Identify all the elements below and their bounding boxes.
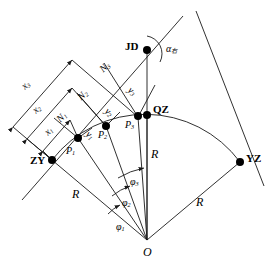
label-R-right: R	[196, 196, 203, 208]
label-P1: P1	[66, 146, 75, 157]
angle-arc-phi2	[112, 186, 130, 196]
label-phi1: φ1	[116, 222, 125, 233]
radius-O-P3	[138, 117, 147, 240]
curve-setting-out-figure: JD QZ ZY YZ O P1 P2 P3 x1 x2 x3 y1 y2 y3…	[0, 0, 272, 266]
label-QZ: QZ	[153, 104, 169, 115]
label-YZ: YZ	[246, 153, 261, 164]
label-JD: JD	[125, 41, 138, 52]
dot-YZ	[236, 158, 244, 166]
label-phi2: φ2	[122, 198, 131, 209]
radius-O-YZ	[147, 162, 240, 240]
label-ZY: ZY	[30, 155, 45, 166]
label-P2: P2	[98, 130, 107, 141]
label-P3: P3	[125, 120, 134, 131]
label-alpha: α右	[166, 44, 177, 55]
dot-P1	[74, 134, 82, 142]
station-dots	[48, 46, 244, 166]
label-phi3: φ3	[130, 177, 139, 188]
dot-P3	[134, 112, 142, 120]
label-O: O	[143, 246, 152, 258]
dot-ZY	[48, 156, 56, 164]
normal-N1-line	[54, 118, 78, 138]
dot-JD	[143, 46, 151, 54]
dot-QZ	[143, 111, 151, 119]
label-R-left: R	[72, 188, 79, 200]
label-R-center: R	[151, 148, 158, 160]
radius-O-P1	[78, 138, 147, 240]
